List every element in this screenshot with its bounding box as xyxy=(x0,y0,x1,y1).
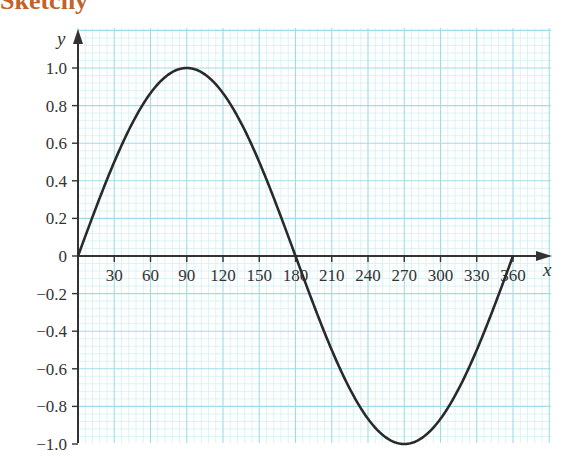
axes xyxy=(72,29,552,444)
y-tick-label: 0.2 xyxy=(46,209,67,228)
x-tick-label: 150 xyxy=(247,266,273,285)
x-tick-label: 240 xyxy=(355,266,381,285)
x-tick-label: 30 xyxy=(106,266,123,285)
x-tick-label: 60 xyxy=(142,266,159,285)
y-tick-label: 0.4 xyxy=(46,172,68,191)
y-axis-label: y xyxy=(55,28,66,49)
y-axis-arrow-icon xyxy=(73,29,83,44)
x-tick-label: 90 xyxy=(178,266,195,285)
y-tick-label: −0.2 xyxy=(36,285,67,304)
x-tick-label: 330 xyxy=(464,266,490,285)
grid-minor xyxy=(78,28,551,443)
x-tick-label: 270 xyxy=(392,266,418,285)
x-axis-label: x xyxy=(542,259,552,280)
x-tick-label: 210 xyxy=(319,266,345,285)
x-tick-label: 120 xyxy=(210,266,236,285)
y-tick-label: 0.6 xyxy=(46,134,67,153)
y-tick-label: −1.0 xyxy=(36,435,67,454)
y-tick-label: 1.0 xyxy=(46,59,67,78)
y-tick-label: 0 xyxy=(59,247,68,266)
y-tick-label: 0.8 xyxy=(46,97,67,116)
y-tick-label: −0.6 xyxy=(36,360,67,379)
sine-chart: 306090120150180210240270300330360−1.0−0.… xyxy=(0,0,579,470)
y-tick-label: −0.4 xyxy=(36,322,67,341)
y-tick-label: −0.8 xyxy=(36,397,67,416)
x-tick-label: 300 xyxy=(428,266,454,285)
